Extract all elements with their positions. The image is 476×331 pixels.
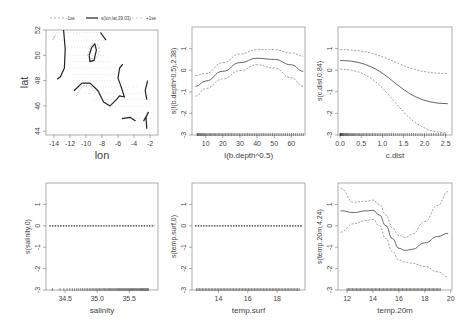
fit-line: [341, 210, 449, 250]
lower-se-line: [195, 65, 303, 96]
station-point: [101, 40, 102, 41]
x-tick-label: 16: [395, 295, 403, 302]
station-point: [118, 106, 119, 107]
station-point: [97, 93, 98, 94]
station-point: [78, 74, 79, 75]
station-point: [131, 112, 132, 113]
x-tick-label: 0.0: [335, 140, 345, 147]
y-axis-label: s(temp.surf,0): [170, 215, 178, 258]
station-point: [88, 93, 89, 94]
y-tick-label: 48: [34, 77, 41, 85]
y-tick-label: -1: [326, 89, 333, 95]
station-point: [67, 40, 68, 41]
y-tick-label: 0: [326, 68, 333, 72]
station-point: [146, 106, 147, 107]
station-point: [82, 80, 83, 81]
y-tick-label: 1: [180, 202, 187, 206]
y-tick-label: 1: [34, 202, 41, 206]
x-tick-label: -12: [65, 140, 75, 147]
lower-se-line: [340, 69, 448, 133]
smooth-plot: 0.00.51.01.52.02.5-3-2-101c.dists(c.dist…: [314, 0, 476, 165]
x-tick-label: -14: [49, 140, 59, 147]
station-point: [100, 68, 101, 69]
station-point: [137, 112, 138, 113]
x-axis-label: I(b.depth^0.5): [224, 151, 273, 160]
plot-frame: [192, 183, 305, 290]
upper-se-line: [341, 188, 449, 237]
station-point: [142, 125, 143, 126]
station-point: [103, 55, 104, 56]
y-tick-label: -2: [326, 265, 333, 271]
station-point: [65, 32, 66, 33]
station-point: [72, 61, 73, 62]
smooth-plot: 34.535.035.5-3-2-101salinitys(salinity,0…: [0, 165, 160, 331]
station-point: [87, 40, 88, 41]
station-point: [98, 32, 99, 33]
station-point: [98, 61, 99, 62]
station-point: [142, 118, 143, 119]
station-point: [134, 112, 135, 113]
x-tick-label: -10: [81, 140, 91, 147]
station-point: [78, 55, 79, 56]
station-point: [90, 80, 91, 81]
station-point: [98, 55, 99, 56]
x-axis-label: salinity: [90, 306, 114, 315]
station-point: [103, 61, 104, 62]
legend-plus-se-label: +1se: [146, 16, 156, 21]
fit-contour: [145, 81, 147, 100]
station-point: [86, 87, 87, 88]
y-tick-label: -3: [34, 287, 41, 293]
station-point: [150, 118, 151, 119]
y-tick-label: -1: [326, 244, 333, 250]
station-point: [106, 61, 107, 62]
plot-frame: [46, 30, 158, 135]
x-tick-label: 35.0: [90, 295, 104, 302]
legend-minus-se-label: -1se: [66, 16, 75, 21]
station-point: [91, 93, 92, 94]
rug-marks: [347, 288, 440, 291]
station-point: [95, 68, 96, 69]
panel-cdist: 0.00.51.01.52.02.5-3-2-101c.dists(c.dist…: [314, 0, 476, 165]
station-point: [86, 93, 87, 94]
station-point: [103, 87, 104, 88]
station-point: [81, 55, 82, 56]
station-point: [100, 55, 101, 56]
y-tick-label: 0: [326, 224, 333, 228]
fit-line: [195, 58, 303, 86]
panel-lonlat: -14-12-10-8-6-4-24446485052lonlat-1ses(l…: [0, 0, 160, 165]
station-point: [84, 61, 85, 62]
station-point: [81, 61, 82, 62]
station-point: [70, 61, 71, 62]
panel-salinity: 34.535.035.5-3-2-101salinitys(salinity,0…: [0, 165, 160, 331]
station-point: [104, 40, 105, 41]
station-point: [90, 32, 91, 33]
x-tick-label: 18: [421, 295, 429, 302]
station-point: [106, 87, 107, 88]
station-point: [154, 112, 155, 113]
station-point: [133, 99, 134, 100]
plot-frame: [192, 27, 305, 135]
x-tick-label: 18: [273, 295, 281, 302]
station-point: [86, 55, 87, 56]
station-point: [98, 74, 99, 75]
station-point: [129, 106, 130, 107]
y-axis-label: lat: [18, 77, 30, 89]
station-point: [138, 99, 139, 100]
station-point: [125, 87, 126, 88]
station-point: [85, 47, 86, 48]
plot-frame: [46, 183, 158, 290]
station-point: [109, 61, 110, 62]
x-tick-label: 14: [215, 295, 223, 302]
station-point: [89, 68, 90, 69]
station-point: [132, 106, 133, 107]
station-point: [75, 55, 76, 56]
x-tick-label: 12: [343, 295, 351, 302]
station-point: [84, 40, 85, 41]
station-point: [148, 118, 149, 119]
station-point: [108, 93, 109, 94]
plot-frame: [338, 183, 452, 290]
se-contour: [52, 35, 55, 40]
station-point: [95, 74, 96, 75]
station-point: [92, 74, 93, 75]
station-point: [114, 93, 115, 94]
